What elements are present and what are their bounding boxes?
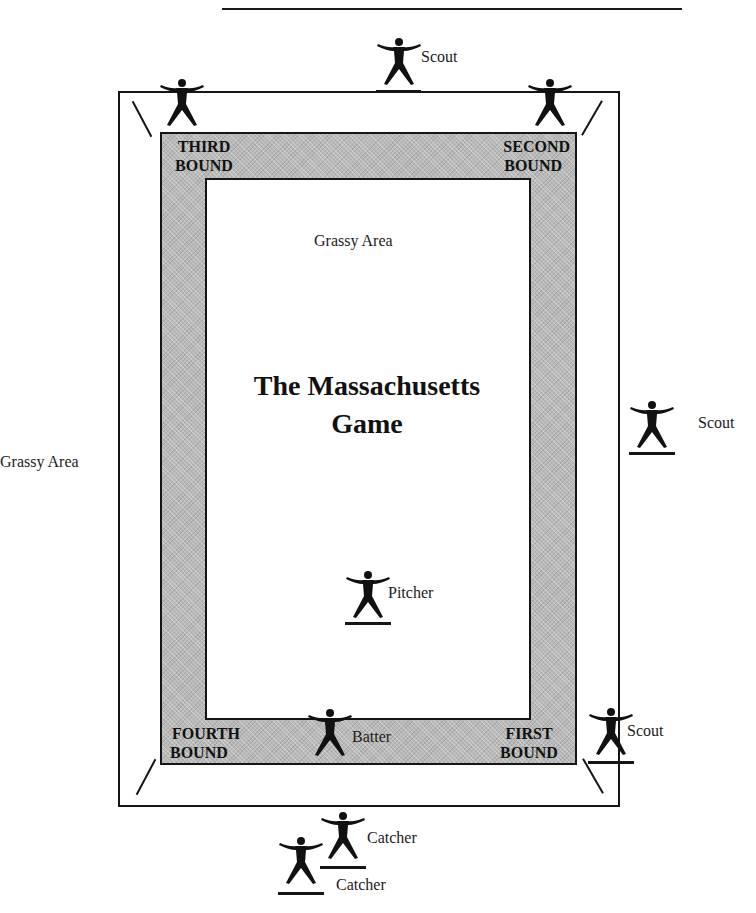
catcher-1-position-line bbox=[320, 866, 366, 869]
fourth-bound-line1: FOURTH bbox=[164, 724, 248, 743]
diagram-title-line2: Game bbox=[207, 405, 527, 443]
person-icon bbox=[158, 78, 206, 128]
scout-bottom-right-position-line bbox=[588, 761, 634, 764]
player-figure-third-bound bbox=[158, 78, 206, 128]
batter-label: Batter bbox=[352, 728, 391, 746]
batter-figure bbox=[306, 708, 354, 758]
scout-top-position-line bbox=[376, 90, 421, 93]
catcher-figure-1 bbox=[319, 811, 367, 861]
third-bound-label: THIRD BOUND bbox=[166, 137, 242, 175]
header-rule bbox=[222, 8, 682, 10]
catcher-2-label: Catcher bbox=[336, 876, 386, 894]
scout-figure-top bbox=[375, 37, 423, 87]
person-icon bbox=[375, 37, 423, 87]
catcher-2-position-line bbox=[278, 892, 324, 895]
pitcher-figure bbox=[344, 570, 392, 620]
first-bound-line2: BOUND bbox=[490, 743, 568, 762]
diagram-title: The Massachusetts Game bbox=[207, 367, 527, 443]
inner-grassy-area-label: Grassy Area bbox=[314, 232, 393, 250]
person-icon bbox=[319, 811, 367, 861]
first-bound-label: FIRST BOUND bbox=[490, 724, 568, 762]
person-icon bbox=[306, 708, 354, 758]
fourth-bound-line2: BOUND bbox=[164, 743, 248, 762]
person-icon bbox=[344, 570, 392, 620]
player-figure-second-bound bbox=[526, 78, 574, 128]
inner-grassy-area bbox=[205, 178, 531, 720]
scout-top-label: Scout bbox=[421, 48, 457, 66]
scout-right-position-line bbox=[629, 452, 675, 455]
third-bound-line2: BOUND bbox=[166, 156, 242, 175]
outer-grassy-area-label: Grassy Area bbox=[0, 453, 79, 471]
scout-right-label: Scout bbox=[698, 414, 734, 432]
person-icon bbox=[526, 78, 574, 128]
person-icon bbox=[628, 400, 676, 450]
pitcher-label: Pitcher bbox=[388, 584, 433, 602]
diagram-title-line1: The Massachusetts bbox=[207, 367, 527, 405]
third-bound-line1: THIRD bbox=[166, 137, 242, 156]
second-bound-line2: BOUND bbox=[484, 156, 570, 175]
person-icon bbox=[277, 836, 325, 886]
second-bound-label: SECOND BOUND bbox=[484, 137, 570, 175]
scout-bottom-right-label: Scout bbox=[627, 722, 663, 740]
second-bound-line1: SECOND bbox=[484, 137, 570, 156]
pitcher-position-line bbox=[345, 622, 391, 625]
fourth-bound-label: FOURTH BOUND bbox=[164, 724, 248, 762]
catcher-1-label: Catcher bbox=[367, 829, 417, 847]
first-bound-line1: FIRST bbox=[490, 724, 568, 743]
catcher-figure-2 bbox=[277, 836, 325, 886]
scout-figure-right bbox=[628, 400, 676, 450]
